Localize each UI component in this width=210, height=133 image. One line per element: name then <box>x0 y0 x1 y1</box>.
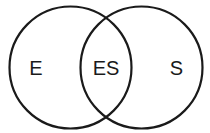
label-es: ES <box>93 57 120 79</box>
label-s: S <box>170 57 183 79</box>
label-e: E <box>29 57 42 79</box>
venn-diagram: E ES S <box>0 0 210 133</box>
